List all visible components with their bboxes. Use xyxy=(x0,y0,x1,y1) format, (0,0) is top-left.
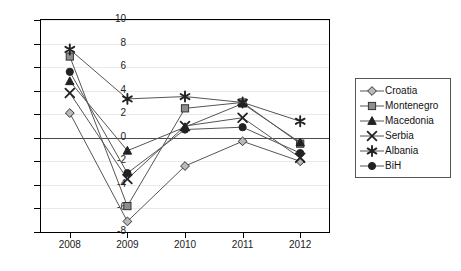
legend-marker-diamond-icon xyxy=(359,84,385,98)
legend-marker-x-icon xyxy=(359,129,385,143)
y-tick-label: -6 xyxy=(96,202,126,212)
legend-marker-asterisk-icon xyxy=(359,144,385,158)
legend: Croatia Montenegro Macedonia Serbia Alba… xyxy=(355,78,451,178)
plot-area xyxy=(40,19,330,233)
x-tick-label: 2008 xyxy=(40,239,100,250)
x-tick xyxy=(70,233,71,238)
legend-label: Croatia xyxy=(385,85,417,96)
x-tick-label: 2012 xyxy=(270,239,330,250)
y-tick xyxy=(34,232,40,233)
y-tick-label: 6 xyxy=(96,61,126,71)
y-tick xyxy=(34,161,40,162)
legend-label: BiH xyxy=(385,160,401,171)
x-tick-label: 2010 xyxy=(155,239,215,250)
legend-item: Macedonia xyxy=(359,113,447,128)
legend-label: Serbia xyxy=(385,130,414,141)
y-tick xyxy=(34,20,40,21)
x-tick-label: 2011 xyxy=(213,239,273,250)
y-tick-label: -8 xyxy=(96,226,126,236)
gridline xyxy=(41,91,329,92)
x-tick xyxy=(127,233,128,238)
gridline xyxy=(41,185,329,186)
x-tick xyxy=(243,233,244,238)
legend-item: Serbia xyxy=(359,128,447,143)
gridline xyxy=(41,161,329,162)
legend-item: Albania xyxy=(359,143,447,158)
y-tick-label: 4 xyxy=(96,85,126,95)
legend-marker-circle-icon xyxy=(359,159,385,173)
x-tick xyxy=(300,233,301,238)
y-tick-label: 2 xyxy=(96,108,126,118)
legend-marker-triangle-icon xyxy=(359,114,385,128)
y-tick-label: 10 xyxy=(96,14,126,24)
chart-root: -8-6-4-20246810 20082009201020112012 Cro… xyxy=(0,0,461,271)
legend-label: Macedonia xyxy=(385,115,434,126)
y-tick xyxy=(34,114,40,115)
x-tick-label: 2009 xyxy=(97,239,157,250)
y-tick xyxy=(34,208,40,209)
zero-line xyxy=(41,138,329,139)
legend-item: BiH xyxy=(359,158,447,173)
y-tick-label: -2 xyxy=(96,155,126,165)
y-tick xyxy=(34,91,40,92)
gridline xyxy=(41,208,329,209)
gridline xyxy=(41,114,329,115)
y-tick xyxy=(34,67,40,68)
y-tick-label: 8 xyxy=(96,38,126,48)
y-tick-label: -4 xyxy=(96,179,126,189)
legend-item: Montenegro xyxy=(359,98,447,113)
y-tick xyxy=(34,138,40,139)
y-tick xyxy=(34,185,40,186)
y-tick-label: 0 xyxy=(96,132,126,142)
legend-item: Croatia xyxy=(359,83,447,98)
legend-label: Montenegro xyxy=(385,100,438,111)
legend-label: Albania xyxy=(385,145,418,156)
legend-marker-square-icon xyxy=(359,99,385,113)
y-tick xyxy=(34,44,40,45)
gridline xyxy=(41,67,329,68)
gridline xyxy=(41,20,329,21)
gridline xyxy=(41,44,329,45)
x-tick xyxy=(185,233,186,238)
